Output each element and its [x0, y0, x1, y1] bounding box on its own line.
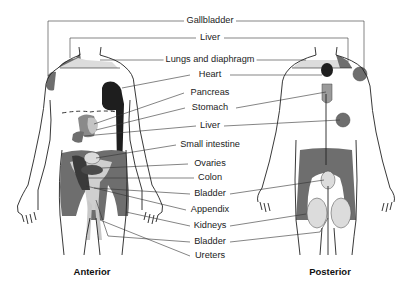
label-ureters: Ureters [193, 250, 227, 261]
label-stomach: Stomach [190, 102, 230, 113]
label-ovaries: Ovaries [192, 158, 228, 169]
label-heart: Heart [197, 69, 223, 80]
anterior-right-hand [142, 190, 163, 224]
posterior-figure [258, 47, 395, 255]
posterior-heart [321, 63, 333, 77]
anterior-right-arm-inner [129, 100, 142, 190]
anterior-ovaries [81, 165, 103, 175]
posterior-neck-outline [315, 47, 337, 55]
posterior-kidney-right [331, 198, 351, 228]
label-lungs-diaphragm: Lungs and diaphragm [164, 54, 257, 65]
label-small-intestine: Small intestine [178, 139, 242, 150]
leader-ureters [100, 220, 190, 256]
posterior-kidney-left [307, 198, 327, 228]
label-bladder-lower: Bladder [192, 236, 228, 247]
label-appendix: Appendix [189, 204, 231, 215]
posterior-right-hand [382, 188, 395, 212]
label-liver-mid: Liver [198, 120, 222, 131]
label-colon: Colon [196, 172, 224, 183]
label-liver-top: Liver [198, 32, 222, 43]
anterior-neck-outline [79, 47, 101, 55]
anterior-liver-patch [72, 131, 84, 142]
anterior-left-hand [17, 190, 38, 224]
posterior-pancreas-stomach [322, 84, 332, 103]
label-bladder-upper: Bladder [192, 188, 228, 199]
label-pancreas: Pancreas [189, 87, 232, 98]
anterior-left-arm-inner [38, 100, 51, 190]
posterior-gallbladder-shoulder [353, 67, 367, 81]
referred-pain-diagram: Gallbladder Liver Lungs and diaphragm He… [0, 0, 418, 283]
caption-posterior: Posterior [309, 266, 351, 277]
posterior-left-hand [258, 188, 271, 212]
label-gallbladder: Gallbladder [185, 15, 236, 26]
label-kidneys: Kidneys [192, 220, 229, 231]
anterior-chest-line [62, 111, 118, 113]
caption-anterior: Anterior [74, 266, 111, 277]
